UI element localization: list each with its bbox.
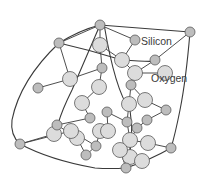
oxygen-atom	[141, 136, 156, 151]
silicon-atom	[150, 55, 160, 65]
oxygen-atom	[64, 124, 79, 139]
silicon-atom	[121, 163, 131, 173]
silicon-atom	[166, 143, 176, 153]
silicon-atom	[142, 115, 152, 125]
oxygen-atom	[135, 154, 150, 169]
oxygen-atom	[101, 124, 116, 139]
label-silicon: Silicon	[141, 35, 172, 47]
silicon-atom	[85, 113, 95, 123]
oxygen-atom	[138, 93, 153, 108]
boundary-bottom-left	[20, 144, 126, 169]
boundary-right	[171, 32, 190, 148]
silica-network-diagram: Silicon Oxygen	[0, 0, 208, 189]
silicon-atom	[130, 35, 140, 45]
oxygen-atom	[113, 143, 128, 158]
silicon-atom	[52, 120, 62, 130]
oxygen-atom	[93, 38, 108, 53]
silicon-atom	[54, 38, 64, 48]
silicon-atom	[95, 20, 105, 30]
silicon-atom	[132, 123, 142, 133]
silicon-atom	[161, 105, 171, 115]
silicon-atom	[81, 150, 91, 160]
silicon-atom	[97, 63, 107, 73]
silicon-atom	[91, 141, 101, 151]
label-oxygen: Oxygen	[151, 72, 187, 84]
silicon-atom	[126, 80, 136, 90]
silicon-atom	[185, 27, 195, 37]
silicon-atom	[102, 107, 112, 117]
oxygen-atom	[122, 97, 137, 112]
oxygen-atom	[115, 53, 130, 68]
oxygen-atom	[63, 72, 78, 87]
silicon-atom	[33, 83, 43, 93]
silicon-atom	[122, 117, 132, 127]
oxygen-atom	[75, 96, 90, 111]
silicon-atom	[15, 139, 25, 149]
oxygen-atom	[128, 66, 143, 81]
oxygen-atom	[92, 80, 107, 95]
